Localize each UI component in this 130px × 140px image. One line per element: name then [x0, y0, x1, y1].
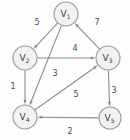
edge-arrowhead [37, 116, 42, 119]
nodes-layer: V1V2V3V4V5 [13, 2, 121, 129]
graph-node-v5[interactable]: V5 [99, 107, 121, 129]
graph-edge-v2-to-v3 [38, 57, 96, 60]
graph-node-v3[interactable]: V3 [96, 46, 120, 70]
graph-edge-v5-to-v4 [37, 116, 98, 119]
edge-arrowhead [24, 100, 27, 105]
edge-weight-v1-v2: 5 [34, 18, 39, 27]
edge-arrowhead [108, 102, 111, 107]
edge-arrowhead [30, 101, 33, 106]
edge-arrowhead [91, 57, 96, 60]
edge-weight-v3-v1: 7 [94, 18, 99, 27]
graph-edge-v4-to-v3 [35, 65, 98, 110]
graph-node-v4[interactable]: V4 [13, 105, 37, 129]
edge-line [35, 67, 96, 110]
graph-node-v1[interactable]: V1 [54, 2, 78, 26]
graph-node-v2[interactable]: V2 [13, 46, 37, 70]
graph-diagram: V1V2V3V4V5 57431532 [0, 0, 130, 140]
edge-weight-v1-v4: 3 [52, 69, 57, 78]
graph-edge-v2-to-v4 [24, 71, 27, 105]
edge-weight-v5-v4: 2 [67, 127, 72, 136]
edge-line [76, 25, 99, 49]
edge-weight-v4-v3: 5 [73, 90, 78, 99]
edge-weight-v3-v5: 3 [111, 86, 116, 95]
edge-weight-v2-v4: 1 [10, 82, 15, 91]
edge-line [108, 70, 109, 103]
graph-canvas: V1V2V3V4V5 57431532 [0, 0, 130, 140]
edge-weight-v2-v3: 4 [72, 44, 77, 53]
edges-layer [24, 23, 111, 119]
graph-edge-v3-to-v1 [75, 23, 100, 49]
edge-line [40, 117, 98, 118]
